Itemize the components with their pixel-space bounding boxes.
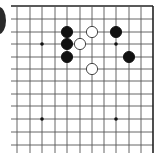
- star-point: [40, 42, 44, 46]
- black-stone[interactable]: [123, 51, 134, 62]
- star-point: [114, 117, 118, 121]
- black-stone[interactable]: [61, 51, 72, 62]
- black-stone[interactable]: [61, 38, 72, 49]
- white-stone[interactable]: [86, 63, 97, 74]
- go-board[interactable]: [0, 0, 159, 159]
- white-stone[interactable]: [74, 38, 85, 49]
- star-point: [114, 42, 118, 46]
- white-stone[interactable]: [86, 26, 97, 37]
- star-point: [40, 117, 44, 121]
- black-stone[interactable]: [110, 26, 121, 37]
- black-stone[interactable]: [61, 26, 72, 37]
